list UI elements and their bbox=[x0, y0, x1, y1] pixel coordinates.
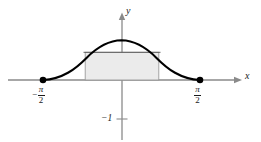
fraction-numerator: π bbox=[194, 85, 201, 95]
x-axis-arrowhead bbox=[234, 77, 242, 83]
fraction-numerator: π bbox=[38, 85, 45, 95]
fraction-denominator: 2 bbox=[38, 96, 45, 106]
fraction-denominator: 2 bbox=[194, 96, 201, 106]
y-axis-label: y bbox=[126, 6, 130, 16]
endpoint-dot-right bbox=[197, 77, 204, 84]
endpoint-dot-left bbox=[40, 77, 47, 84]
x-axis-label: x bbox=[245, 71, 249, 81]
figure-canvas bbox=[0, 0, 261, 142]
fraction-stack: π 2 bbox=[194, 85, 201, 105]
math-figure: y x −1 − π 2 π 2 bbox=[0, 0, 261, 142]
x-tick-label-pi-over-2: π 2 bbox=[194, 85, 201, 105]
y-axis-arrowhead bbox=[119, 13, 125, 21]
minus-sign: − bbox=[32, 90, 37, 100]
y-tick-label-negative-one: −1 bbox=[101, 114, 112, 124]
fraction-stack: π 2 bbox=[38, 85, 45, 105]
inscribed-rectangle bbox=[85, 52, 159, 80]
x-tick-label-negative-pi-over-2: − π 2 bbox=[32, 85, 45, 105]
